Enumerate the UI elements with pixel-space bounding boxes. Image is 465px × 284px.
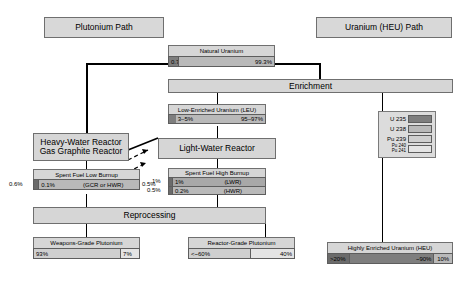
heu-label: Highly Enriched Uranium (HEU) [348, 245, 433, 251]
heu-u235-value: ~90% [416, 256, 432, 262]
heu-seg-u235: ~90% [349, 254, 433, 263]
spent-fuel-low-seg-u235: 0.1% [38, 180, 67, 189]
spent-fuel-high-lwr-label-text: (LWR) [224, 179, 241, 185]
legend-swatch-u238 [408, 125, 432, 133]
spent-fuel-high-hwr-label: (HWR) [201, 187, 265, 194]
spent-fuel-low-title: Spent Fuel Low Burnup [33, 169, 140, 179]
node-spent-fuel-high-burnup: Spent Fuel High Burnup 1% (LWR) 0.2% (HW… [168, 168, 266, 195]
spent-fuel-high-outside-hwr: 0.5% [147, 187, 161, 193]
heu-seg-min: >20% [328, 254, 349, 263]
node-spent-fuel-low-burnup: Spent Fuel Low Burnup 0.1% (GCR or HWR) [33, 169, 140, 190]
reactor-grade-plutonium-title: Reactor-Grade Plutonium [188, 237, 295, 248]
weapons-grade-plutonium-title: Weapons-Grade Plutonium [33, 237, 140, 248]
connector-sfhigh-reprocessing [217, 194, 218, 207]
connector-reprocessing-rgpu [265, 224, 266, 237]
light-water-reactor-label: Light-Water Reactor [179, 144, 255, 153]
natural-uranium-u238-value: 99.3% [255, 59, 272, 65]
weapons-grade-plutonium-seg-pu24x: 7% [120, 249, 139, 258]
title-box-plutonium-path: Plutonium Path [44, 17, 164, 38]
title-uranium-path-label: Uranium (HEU) Path [345, 23, 423, 32]
natural-uranium-seg-u238: 99.3% [178, 57, 274, 66]
heu-title: Highly Enriched Uranium (HEU) [327, 242, 453, 253]
legend-row-u235: U 235 [382, 114, 432, 123]
weapons-grade-plutonium-pu239-value: 93% [36, 251, 48, 257]
spent-fuel-high-lwr-value: 1% [172, 178, 201, 186]
natural-uranium-title: Natural Uranium [168, 45, 275, 56]
connector-nu-right-v [319, 63, 321, 79]
leu-bar: 3–5% 95–97% [168, 114, 266, 124]
heu-min-value: >20% [330, 256, 346, 262]
spent-fuel-high-title: Spent Fuel High Burnup [168, 168, 266, 177]
title-plutonium-path-label: Plutonium Path [75, 23, 133, 32]
diagram-canvas: Plutonium Path Uranium (HEU) Path Natura… [0, 0, 465, 284]
natural-uranium-seg-u235: 0.7% [169, 57, 178, 66]
reprocessing-label: Reprocessing [124, 211, 176, 220]
leu-seg-u238: 95–97% [210, 115, 265, 123]
legend-label-pu239: Pu 239 [387, 136, 406, 142]
weapons-grade-plutonium-bar: 93% 7% [33, 248, 140, 259]
enrichment-label: Enrichment [289, 82, 332, 91]
leu-u238-value: 95–97% [241, 116, 263, 122]
spent-fuel-low-sublabel: (GCR or HWR) [83, 182, 123, 188]
reactor-grade-plutonium-pu239-value: <~60% [191, 251, 210, 257]
connector-enrichment-leu [217, 92, 218, 104]
leu-u235-value: 3–5% [178, 116, 193, 122]
spent-fuel-high-row-lwr: 1% (LWR) [168, 177, 266, 186]
reactor-grade-plutonium-bar: <~60% 40% [188, 248, 295, 259]
leu-seg-u235-fill [169, 115, 176, 123]
spent-fuel-high-hwr-value-text: 0.2% [175, 188, 189, 194]
connector-reprocessing-wgpu [86, 224, 87, 237]
spent-fuel-high-lwr-label: (LWR) [201, 178, 265, 186]
connector-sflow-reprocessing [86, 194, 87, 207]
legend-row-u238: U 238 [382, 124, 432, 133]
spent-fuel-high-hwr-label-text: (HWR) [224, 188, 242, 194]
legend-swatch-u235 [408, 115, 432, 123]
title-box-uranium-path: Uranium (HEU) Path [316, 17, 452, 38]
leu-seg-u235-label: 3–5% [176, 115, 211, 123]
legend-swatch-pu24x [408, 145, 432, 153]
weapons-grade-plutonium-label: Weapons-Grade Plutonium [50, 240, 122, 246]
connector-nu-left-v [86, 63, 88, 140]
node-natural-uranium: Natural Uranium 0.7% 99.3% [168, 45, 275, 67]
spent-fuel-low-seg-sub: (GCR or HWR) [68, 180, 139, 189]
weapons-grade-plutonium-pu24x-value: 7% [123, 251, 132, 257]
node-light-water-reactor: Light-Water Reactor [158, 138, 276, 159]
spent-fuel-low-bar: 0.1% (GCR or HWR) [33, 179, 140, 190]
isotope-legend: U 235 U 238 Pu 239 Pu 240 Pu 241 [378, 111, 436, 158]
reactor-grade-plutonium-label: Reactor-Grade Plutonium [207, 240, 275, 246]
heu-bar: >20% ~90% 10% [327, 253, 453, 264]
node-enrichment: Enrichment [168, 79, 453, 93]
connector-lwr-sfhigh [217, 159, 218, 168]
heu-seg-u238: 10% [433, 254, 452, 263]
legend-label-u235: U 235 [390, 116, 406, 122]
node-weapons-grade-plutonium: Weapons-Grade Plutonium 93% 7% [33, 237, 140, 259]
node-reprocessing: Reprocessing [33, 207, 266, 224]
node-highly-enriched-uranium: Highly Enriched Uranium (HEU) >20% ~90% … [327, 242, 453, 264]
heu-u238-value: 10% [437, 256, 449, 262]
legend-row-pu24x: Pu 240 Pu 241 [382, 144, 432, 153]
legend-label-u238: U 238 [390, 126, 406, 132]
weapons-grade-plutonium-seg-pu239: 93% [34, 249, 120, 258]
spent-fuel-high-label: Spent Fuel High Burnup [185, 170, 249, 176]
spent-fuel-low-label: Spent Fuel Low Burnup [55, 172, 118, 178]
connector-hwr-sflow [86, 161, 87, 169]
spent-fuel-high-hwr-value: 0.2% [172, 187, 201, 194]
spent-fuel-low-outside-left: 0.6% [9, 181, 23, 187]
spent-fuel-high-outside-lwr: 1% [152, 178, 161, 184]
natural-uranium-u235-value: 0.7% [171, 59, 178, 65]
natural-uranium-bar: 0.7% 99.3% [168, 56, 275, 67]
node-heavy-water-reactor: Heavy-Water Reactor Gas Graphite Reactor [33, 133, 129, 161]
natural-uranium-label: Natural Uranium [200, 48, 244, 54]
spent-fuel-low-u235-value: 0.1% [41, 182, 55, 188]
legend-row-pu239: Pu 239 [382, 134, 432, 143]
leu-label: Low-Enriched Uranium (LEU) [178, 107, 256, 113]
connector-nu-right-h [275, 63, 321, 65]
gas-graphite-reactor-line2: Gas Graphite Reactor [40, 147, 123, 156]
legend-label-pu24x-group: Pu 240 Pu 241 [392, 144, 408, 153]
spent-fuel-high-row-hwr: 0.2% (HWR) [168, 186, 266, 195]
spent-fuel-high-lwr-value-text: 1% [175, 179, 184, 185]
leu-title: Low-Enriched Uranium (LEU) [168, 104, 266, 114]
legend-label-pu241: Pu 241 [392, 149, 406, 154]
node-reactor-grade-plutonium: Reactor-Grade Plutonium <~60% 40% [188, 237, 295, 259]
reactor-grade-plutonium-seg-pu239: <~60% [189, 249, 250, 258]
